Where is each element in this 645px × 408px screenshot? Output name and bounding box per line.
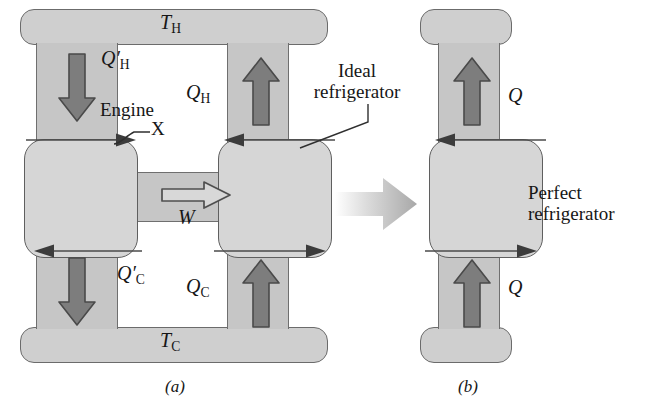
panel-a-caption: (a): [165, 378, 185, 396]
hot-reservoir-temp-symbol: T: [160, 11, 171, 33]
cold-reservoir-b: [420, 327, 512, 363]
panel-a-caption-text: (a): [165, 377, 185, 396]
refrigerator-hot-up-arrow-a: [242, 56, 280, 128]
engine-cold-outflow-arrow: [24, 243, 144, 259]
q-c-prime-sub: C: [136, 272, 145, 287]
q-h-prime-label: Q′H: [101, 48, 130, 72]
q-c-prime-symbol: Q: [117, 262, 131, 284]
cold-reservoir-label-a: TC: [160, 330, 180, 354]
work-arrow: [160, 180, 232, 210]
q-top-label-b: Q: [508, 85, 522, 106]
hot-reservoir-label-a: TH: [160, 12, 181, 36]
panel-b-caption-text: (b): [458, 377, 478, 396]
engine-cold-down-arrow: [58, 256, 96, 328]
refrigerator-cold-outflow-arrow-a: [212, 243, 337, 259]
perfect-refrigerator-label: Perfect refrigerator: [528, 182, 645, 225]
hot-reservoir-temp-sub: H: [171, 21, 181, 36]
ideal-refrigerator-label: Ideal refrigerator: [297, 60, 417, 103]
ideal-refrigerator-line-2: refrigerator: [297, 81, 417, 102]
q-h-sub: H: [200, 91, 210, 106]
q-h-label: QH: [186, 82, 210, 106]
work-label: W: [178, 207, 195, 228]
q-c-prime-label: Q′C: [117, 263, 145, 287]
perfect-refrigerator-hot-up-arrow: [453, 56, 491, 128]
hot-reservoir-b: [420, 9, 512, 45]
panel-b-caption: (b): [458, 378, 478, 396]
q-bottom-label-b: Q: [508, 277, 522, 298]
perfect-refrigerator-hot-inflow-arrow: [423, 132, 548, 148]
cold-reservoir-temp-symbol: T: [160, 329, 171, 351]
ideal-refrigerator-leader-line: [296, 104, 372, 152]
engine-label-text: Engine: [100, 99, 154, 120]
engine-box: [24, 139, 138, 258]
q-bottom-symbol-b: Q: [508, 276, 522, 298]
refrigerator-cold-up-arrow-a: [242, 258, 280, 330]
q-c-label: QC: [186, 276, 210, 300]
perfect-refrigerator-box: [429, 139, 543, 258]
engine-label: Engine: [100, 100, 154, 120]
q-top-symbol-b: Q: [508, 84, 522, 106]
perfect-refrigerator-line-1: Perfect: [528, 182, 645, 203]
perfect-refrigerator-line-2: refrigerator: [528, 203, 645, 224]
perfect-refrigerator-cold-outflow-arrow: [423, 243, 548, 259]
equivalence-arrow-icon: [333, 176, 419, 234]
q-h-prime-sub: H: [120, 57, 130, 72]
q-h-prime-symbol: Q: [101, 47, 115, 69]
engine-name-text: X: [151, 118, 165, 139]
perfect-refrigerator-cold-up-arrow: [453, 258, 491, 330]
q-c-sub: C: [200, 285, 209, 300]
engine-hot-down-arrow: [58, 52, 96, 124]
figure-canvas: TH TC: [0, 0, 645, 408]
cold-reservoir-temp-sub: C: [171, 339, 180, 354]
work-symbol: W: [178, 206, 195, 228]
ideal-refrigerator-box: [218, 139, 332, 258]
q-c-symbol: Q: [186, 275, 200, 297]
ideal-refrigerator-line-1: Ideal: [297, 60, 417, 81]
q-h-symbol: Q: [186, 81, 200, 103]
engine-name-label: X: [151, 119, 165, 139]
